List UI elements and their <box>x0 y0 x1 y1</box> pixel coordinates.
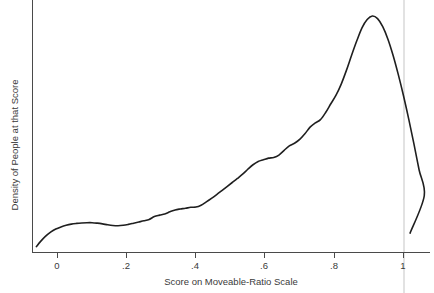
y-axis-title: Density of People at that Score <box>9 80 20 211</box>
x-axis-ticks <box>58 253 404 258</box>
x-tick-label-08: .8 <box>330 260 338 271</box>
x-tick-label-04: .4 <box>191 260 199 271</box>
x-axis-tick-labels: 0 .2 .4 .6 .8 1 <box>54 260 405 271</box>
density-curve <box>36 16 424 247</box>
x-tick-label-02: .2 <box>122 260 130 271</box>
chart-canvas: 0 .2 .4 .6 .8 1 Score on Moveable-Ratio … <box>0 0 434 293</box>
x-tick-label-0: 0 <box>54 260 59 271</box>
x-tick-label-1: 1 <box>400 260 405 271</box>
x-tick-label-06: .6 <box>260 260 268 271</box>
x-axis-title: Score on Moveable-Ratio Scale <box>164 276 298 287</box>
density-chart-figure: 0 .2 .4 .6 .8 1 Score on Moveable-Ratio … <box>0 0 434 293</box>
